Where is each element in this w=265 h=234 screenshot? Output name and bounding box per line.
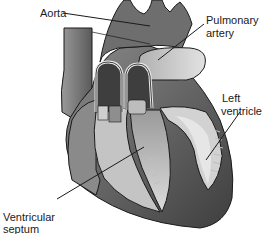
valve-left [96, 62, 122, 112]
leaflet-2 [109, 106, 121, 122]
label-left-ventricle-2: ventricle [221, 105, 262, 117]
label-ventricular-septum-2: septum [3, 223, 39, 234]
label-aorta: Aorta [40, 7, 66, 19]
label-ventricular-septum-1: Ventricular [3, 211, 55, 223]
leaflet-1 [98, 106, 108, 120]
label-left-ventricle-1: Left [222, 92, 240, 104]
leaflet-3 [128, 100, 146, 114]
label-pulmonary-artery-2: artery [206, 27, 234, 39]
label-pulmonary-artery-1: Pulmonary [206, 14, 259, 26]
